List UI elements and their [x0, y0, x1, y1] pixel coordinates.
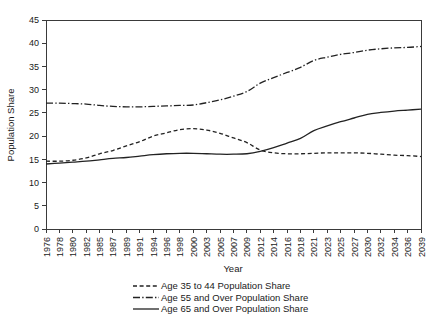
- x-tick-label: 2039: [417, 237, 427, 257]
- x-tick-label: 2036: [403, 237, 413, 257]
- x-axis-title-label: Year: [223, 263, 242, 274]
- y-tick-label: 35: [29, 62, 39, 72]
- x-tick-label: 1991: [135, 237, 145, 257]
- y-tick-label: 30: [29, 85, 39, 95]
- y-tick-label: 10: [29, 178, 39, 188]
- y-tick-label: 20: [29, 131, 39, 141]
- x-tick-label: 2005: [216, 237, 226, 257]
- legend-label: Age 55 and Over Population Share: [161, 292, 308, 303]
- x-tick-label: 2018: [296, 237, 306, 257]
- x-axis-ticks: 1976197819801982198519871989199119941996…: [42, 229, 427, 257]
- series-line-1: [46, 129, 421, 162]
- x-tick-label: 2007: [229, 237, 239, 257]
- x-tick-label: 1978: [55, 237, 65, 257]
- x-tick-label: 1996: [162, 237, 172, 257]
- legend-item: Age 65 and Over Population Share: [133, 303, 308, 314]
- x-axis-title: Year: [223, 263, 242, 274]
- series-line-3: [46, 109, 421, 164]
- x-tick-label: 2009: [242, 237, 252, 257]
- y-tick-label: 25: [29, 108, 39, 118]
- x-tick-label: 2034: [390, 237, 400, 257]
- legend-label: Age 65 and Over Population Share: [161, 303, 308, 314]
- y-tick-label: 15: [29, 155, 39, 165]
- data-series-group: [46, 46, 421, 164]
- y-tick-label: 0: [34, 224, 39, 234]
- x-tick-label: 1982: [82, 237, 92, 257]
- legend-item: Age 55 and Over Population Share: [133, 292, 308, 303]
- y-axis-title: Population Share: [5, 89, 16, 162]
- x-tick-label: 2032: [376, 237, 386, 257]
- y-axis-title-label: Population Share: [5, 89, 16, 162]
- population-share-line-chart: Population Share 051015202530354045 1976…: [0, 0, 438, 319]
- x-tick-label: 2023: [323, 237, 333, 257]
- chart-legend: Age 35 to 44 Population ShareAge 55 and …: [133, 280, 308, 314]
- x-tick-label: 1994: [149, 237, 159, 257]
- y-tick-label: 40: [29, 38, 39, 48]
- x-tick-label: 2014: [269, 237, 279, 257]
- series-line-2: [46, 46, 421, 106]
- x-tick-label: 2003: [202, 237, 212, 257]
- x-tick-label: 2025: [336, 237, 346, 257]
- x-tick-label: 1976: [42, 237, 52, 257]
- x-tick-label: 1998: [175, 237, 185, 257]
- x-tick-label: 2030: [363, 237, 373, 257]
- plot-border: [46, 20, 421, 229]
- x-tick-label: 2000: [189, 237, 199, 257]
- legend-item: Age 35 to 44 Population Share: [133, 280, 290, 291]
- x-tick-label: 2027: [350, 237, 360, 257]
- y-tick-label: 45: [29, 15, 39, 25]
- legend-label: Age 35 to 44 Population Share: [161, 280, 290, 291]
- x-tick-label: 1985: [95, 237, 105, 257]
- x-tick-label: 2021: [309, 237, 319, 257]
- x-tick-label: 1980: [68, 237, 78, 257]
- y-axis-ticks: 051015202530354045: [29, 15, 46, 234]
- x-tick-label: 2016: [283, 237, 293, 257]
- chart-container: Population Share 051015202530354045 1976…: [0, 0, 438, 319]
- x-tick-label: 1989: [122, 237, 132, 257]
- x-tick-label: 1987: [108, 237, 118, 257]
- y-tick-label: 5: [34, 201, 39, 211]
- x-tick-label: 2012: [256, 237, 266, 257]
- plot-frame: [46, 20, 421, 229]
